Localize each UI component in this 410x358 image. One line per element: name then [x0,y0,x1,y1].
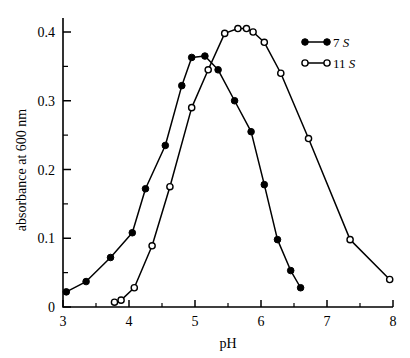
legend-filled-circle-icon [324,39,331,46]
y-tick-label: 0.4 [38,25,56,40]
data-point [248,128,255,135]
data-point [250,29,256,35]
legend-label-unit: S [343,35,350,50]
data-point [188,54,195,61]
data-point [274,236,281,243]
legend-label: 11 S [333,56,356,71]
data-point [189,105,195,111]
x-tick-label: 8 [390,314,397,329]
data-point [131,285,137,291]
series-7s [63,53,304,295]
y-axis-title: absorbance at 600 nm [14,109,29,232]
legend-filled-circle-icon [302,39,309,46]
legend-open-circle-icon [302,60,308,66]
x-tick-label: 7 [324,314,331,329]
chart-legend: 7 S11 S [302,35,356,71]
data-point [162,142,169,149]
data-point [278,70,284,76]
data-point [347,237,353,243]
data-point [261,39,267,45]
x-axis-tick-labels: 345678 [60,314,397,329]
data-point [149,243,155,249]
data-point [243,25,249,31]
x-tick-label: 5 [192,314,199,329]
x-tick-label: 3 [60,314,67,329]
data-point [387,276,393,282]
y-tick-label: 0.1 [38,231,56,246]
series-line [66,56,300,292]
data-point [305,135,311,141]
legend-label-unit: S [349,56,356,71]
data-point [222,30,228,36]
data-point [179,82,186,89]
chart-figure: 345678 00.10.20.30.4 pH absorbance at 60… [0,0,410,358]
y-axis-tick-labels: 00.10.20.30.4 [38,25,56,315]
y-tick-label: 0.3 [38,94,56,109]
ph-absorbance-plot: 345678 00.10.20.30.4 pH absorbance at 60… [0,0,410,358]
x-axis-title: pH [219,336,236,351]
data-point [129,229,136,236]
data-point [202,53,209,60]
data-point [205,67,211,73]
data-point [63,289,70,296]
data-point [235,25,241,31]
data-point [231,97,238,104]
data-point [118,297,124,303]
legend-item-11s: 11 S [302,56,356,71]
data-point [83,278,90,285]
y-tick-label: 0 [48,300,55,315]
x-tick-label: 6 [258,314,265,329]
data-point [142,185,149,192]
data-point [215,67,222,74]
legend-label: 7 S [333,35,350,50]
legend-open-circle-icon [324,60,330,66]
data-point [111,299,117,305]
y-tick-label: 0.2 [38,163,56,178]
data-point [107,254,114,261]
data-point [287,267,294,274]
data-point [297,284,304,291]
legend-item-7s: 7 S [302,35,350,50]
y-axis-ticks [63,32,71,307]
data-point [167,184,173,190]
data-point [261,181,268,188]
x-tick-label: 4 [126,314,133,329]
